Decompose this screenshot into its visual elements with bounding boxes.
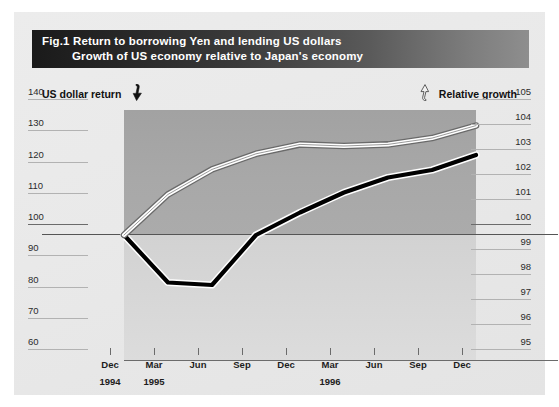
right-axis-tick-95: 95 xyxy=(471,336,531,350)
x-axis-tick-0 xyxy=(110,348,111,355)
plot-area xyxy=(124,110,476,360)
left-axis-tick-120: 120 xyxy=(28,149,88,163)
figure-title-bar: Fig.1 Return to borrowing Yen and lendin… xyxy=(32,30,529,68)
figure-title-line-1: Fig.1 Return to borrowing Yen and lendin… xyxy=(42,34,529,49)
figure-number: Fig.1 xyxy=(42,35,70,47)
right-axis-tick-101: 101 xyxy=(471,186,531,200)
x-axis-tick-5 xyxy=(330,348,331,355)
right-axis-tick-104: 104 xyxy=(471,111,531,125)
right-axis-tick-97: 97 xyxy=(471,286,531,300)
series-relative-growth-halo xyxy=(124,155,476,285)
left-axis-tick-60: 60 xyxy=(28,336,88,350)
figure-title-text-1: Return to borrowing Yen and lending US d… xyxy=(73,35,342,47)
right-axis-tick-96: 96 xyxy=(471,311,531,325)
left-axis-tick-130: 130 xyxy=(28,117,88,131)
x-axis-tick-4 xyxy=(286,348,287,355)
up-arrow-white-icon xyxy=(419,84,431,103)
x-axis-tick-2 xyxy=(198,348,199,355)
left-axis-tick-90: 90 xyxy=(28,242,88,256)
right-axis-tick-99: 99 xyxy=(471,236,531,250)
left-axis-tick-140: 140 xyxy=(28,86,88,100)
left-axis-tick-70: 70 xyxy=(28,305,88,319)
left-axis-tick-100: 100 xyxy=(28,211,88,225)
x-axis-label-8: Dec xyxy=(432,359,492,370)
figure-title-text-2: Growth of US economy relative to Japan's… xyxy=(72,50,363,62)
left-axis-tick-110: 110 xyxy=(28,180,88,194)
x-axis-tick-8 xyxy=(462,348,463,355)
right-axis-tick-98: 98 xyxy=(471,261,531,275)
right-axis-tick-100: 100 xyxy=(471,211,531,225)
right-axis-tick-103: 103 xyxy=(471,136,531,150)
right-axis-tick-105: 105 xyxy=(471,86,531,100)
right-axis-tick-102: 102 xyxy=(471,161,531,175)
x-axis-tick-1 xyxy=(154,348,155,355)
x-axis-year-1996: 1996 xyxy=(300,376,360,387)
x-axis-tick-6 xyxy=(374,348,375,355)
x-axis-tick-3 xyxy=(242,348,243,355)
x-axis-year-1995: 1995 xyxy=(124,376,184,387)
series-us-dollar-return-halo xyxy=(124,126,476,235)
chart-lines xyxy=(124,110,476,360)
x-axis-tick-7 xyxy=(418,348,419,355)
left-axis-tick-80: 80 xyxy=(28,274,88,288)
figure-title-line-2: Growth of US economy relative to Japan's… xyxy=(42,49,529,64)
down-arrow-black-icon xyxy=(131,84,143,103)
figure-panel: Fig.1 Return to borrowing Yen and lendin… xyxy=(14,12,545,395)
